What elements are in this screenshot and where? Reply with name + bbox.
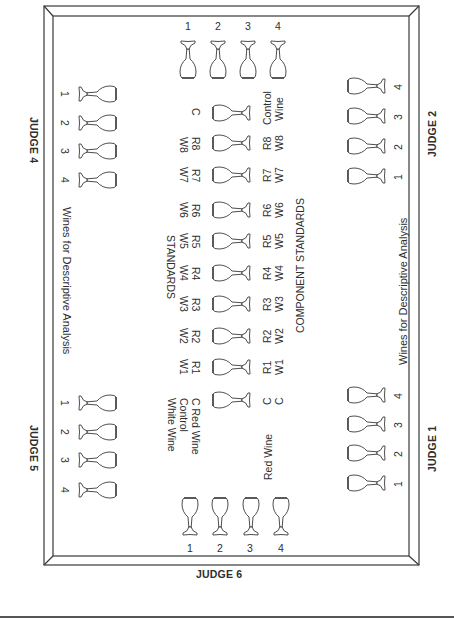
standard-label-a: R8 (191, 137, 202, 150)
left-descriptive-analysis-label: Wines for Descriptive Analysis (61, 207, 72, 354)
control-legend-line2: Control (179, 398, 190, 432)
glasses-judge4 (79, 86, 116, 188)
judge1-label: JUDGE 1 (426, 426, 438, 472)
standard-label-top: R8 (262, 137, 273, 150)
right-descriptive-analysis-label: Wines for Descriptive Analysis (398, 218, 409, 365)
judge1-glass-number: 3 (393, 422, 404, 428)
judge6-glass-number: 1 (187, 543, 193, 554)
judge2-glass-number: 4 (393, 84, 404, 90)
standard-label-top: R4 (262, 267, 273, 280)
standard-label-b: W7 (179, 167, 190, 183)
judge5-label: JUDGE 5 (28, 425, 40, 471)
standard-label-a: R4 (191, 267, 202, 280)
standard-label-bottom: W7 (274, 167, 285, 183)
standard-label-top: R3 (262, 298, 273, 311)
glasses-standards-column (213, 105, 250, 408)
judge5-glass-number: 1 (60, 400, 71, 406)
standard-label-b: W8 (179, 137, 190, 153)
standard-label-bottom: Wine (274, 97, 285, 121)
standard-label-top: C (262, 397, 273, 405)
standard-label-b: W2 (179, 328, 190, 344)
judge6-glass-number: 4 (278, 543, 284, 554)
judge4-glass-number: 3 (60, 148, 71, 154)
standard-label-bottom: W6 (274, 202, 285, 218)
standard-label-bottom: W4 (274, 265, 285, 281)
tasting-table-diagram: 1 2 3 4 1 2 3 4 1 2 3 4 1 2 3 4 4 3 2 1 … (0, 0, 454, 619)
judge4-glass-number: 4 (60, 177, 71, 183)
standard-label-a: R6 (191, 204, 202, 217)
judge2-glass-number: 2 (393, 144, 404, 150)
page-bottom-rule (0, 616, 454, 618)
top-glass-number: 1 (185, 21, 191, 32)
judge6-glass-number: 2 (217, 543, 223, 554)
standard-label-b: W3 (179, 296, 190, 312)
standard-label-b: W4 (179, 265, 190, 281)
glasses-judge2 (348, 78, 385, 184)
judge1-glass-number: 2 (393, 451, 404, 457)
glasses-judge6 (182, 498, 289, 535)
judge2-glass-number: 1 (393, 174, 404, 180)
judge2-glass-number: 3 (393, 114, 404, 120)
judge5-glass-number: 4 (60, 487, 71, 493)
standard-label-b: W1 (179, 359, 190, 375)
standard-label-bottom: W5 (274, 233, 285, 249)
standard-label-a: R1 (191, 361, 202, 374)
judge1-glass-number: 4 (393, 393, 404, 399)
judge4-glass-number: 2 (60, 120, 71, 126)
standards-title: STANDARDS (166, 235, 177, 299)
control-legend-line1: C Red Wine (191, 398, 202, 455)
standard-label-a: C (191, 108, 202, 116)
standard-label-top: R2 (262, 330, 273, 343)
standard-label-a: R7 (191, 169, 202, 182)
standard-label-a: R5 (191, 235, 202, 248)
judge4-glass-number: 1 (60, 91, 71, 97)
top-glass-number: 3 (245, 21, 251, 32)
judge4-label: JUDGE 4 (28, 117, 40, 163)
red-wine-label: Red Wine (263, 434, 274, 480)
standard-label-bottom: C (274, 397, 285, 405)
standard-label-top: R7 (262, 169, 273, 182)
glasses-judge1 (348, 387, 385, 491)
top-glass-number: 2 (215, 21, 221, 32)
standard-label-top: R5 (262, 235, 273, 248)
standard-label-bottom: W3 (274, 296, 285, 312)
judge6-glass-number: 3 (247, 543, 253, 554)
component-standards-title: COMPONENT STANDARDS (295, 198, 306, 333)
standard-label-a: R2 (191, 330, 202, 343)
control-legend-line3: White Wine (167, 398, 178, 452)
judge5-glass-number: 2 (60, 429, 71, 435)
glasses-judge5 (79, 395, 116, 498)
standard-label-a: R3 (191, 298, 202, 311)
judge6-label: JUDGE 6 (196, 568, 242, 580)
judge1-glass-number: 1 (393, 481, 404, 487)
standard-label-bottom: W8 (274, 135, 285, 151)
standard-label-bottom: W1 (274, 359, 285, 375)
standard-label-b: W5 (179, 233, 190, 249)
standard-label-top: R6 (262, 204, 273, 217)
standard-label-top: Control (262, 91, 273, 125)
glasses-top-row (180, 41, 286, 78)
top-glass-number: 4 (275, 21, 281, 32)
standard-label-b: W6 (179, 202, 190, 218)
standard-label-top: R1 (262, 361, 273, 374)
judge5-glass-number: 3 (60, 457, 71, 463)
judge2-label: JUDGE 2 (426, 111, 438, 157)
standard-label-bottom: W2 (274, 328, 285, 344)
